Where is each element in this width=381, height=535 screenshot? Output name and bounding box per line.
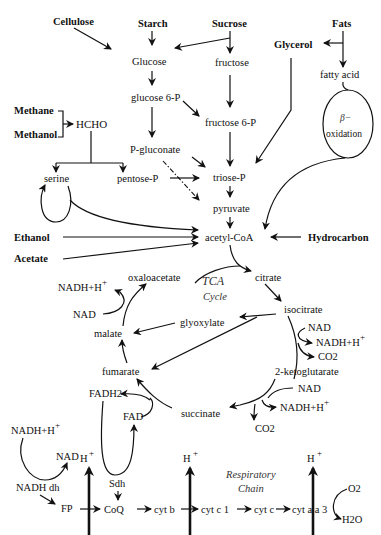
nadh-plus-2: + — [360, 332, 365, 342]
ethanol-label: Ethanol — [14, 232, 50, 243]
cellulose-label: Cellulose — [53, 16, 94, 27]
isocitrate-label: isocitrate — [284, 304, 323, 315]
h-plus-sup-2: + — [193, 448, 198, 458]
fatty-acid-label: fatty acid — [320, 69, 360, 80]
fad-to-fadh2-arrow — [121, 394, 150, 400]
serine-to-acetylcoa-arrow — [70, 200, 198, 230]
ketoglutarate-to-succinate-arrow — [230, 379, 275, 407]
coq-label: CoQ — [104, 504, 124, 515]
beta-label: β− — [339, 113, 351, 123]
nadh-dh-label: NADH dh — [16, 482, 60, 493]
fructose6p-label: fructose 6-P — [205, 117, 256, 128]
glyoxylate-to-malate-arrow — [134, 323, 175, 333]
co2-release-arrow-1 — [298, 343, 314, 357]
triosep-label: triose-P — [213, 172, 246, 183]
acetylcoa-to-citrate-arrow — [230, 245, 251, 271]
nadh-plus-3: + — [324, 397, 329, 407]
cyt-c1-label: cyt c 1 — [201, 504, 229, 515]
resp-nad-label: NAD — [56, 451, 79, 462]
glycerol-label: Glycerol — [274, 39, 312, 50]
citrate-label: citrate — [255, 272, 282, 283]
nadh-label-1: NADH+H — [58, 282, 102, 293]
pentosep-label: pentose-P — [117, 173, 159, 184]
cyt-c-label: cyt c — [254, 504, 274, 515]
nad-label-3: NAD — [298, 383, 321, 394]
fadh2-label: FADH2 — [89, 388, 122, 399]
h-plus-sup-1: + — [89, 448, 94, 458]
beta-oxidation-loop — [323, 90, 373, 158]
nadhdh-to-fp-arrow — [40, 495, 55, 504]
cyt-aa3-label: cyt a a 3 — [292, 504, 327, 515]
betaox-to-acetylcoa-arrow — [265, 158, 345, 229]
fumarate-to-malate-arrow — [122, 340, 127, 363]
oxidation-label: oxidation — [326, 129, 362, 139]
pyruvate-label: pyruvate — [213, 203, 250, 214]
co2-release-arrow-2 — [254, 404, 255, 420]
nadh-plus-1: + — [102, 277, 107, 287]
acetate-to-acetylcoa-arrow — [63, 243, 198, 259]
glycerol-to-triosep-arrow — [256, 58, 291, 163]
sucrose-label: Sucrose — [212, 18, 247, 29]
tca-cycle-title: Cycle — [203, 291, 227, 302]
fats-label: Fats — [332, 18, 351, 29]
hydrocarbon-label: Hydrocarbon — [308, 232, 369, 243]
nadh-label-3: NADH+H — [280, 402, 324, 413]
nad-label-1: NAD — [73, 309, 96, 320]
serine-label: serine — [44, 173, 69, 184]
acetate-label: Acetate — [14, 253, 48, 264]
fattyacid-connector — [343, 82, 348, 90]
h2o-label: H2O — [342, 514, 363, 525]
h-plus-label-3: H — [307, 453, 315, 464]
succinate-label: succinate — [181, 408, 220, 419]
nad-to-nadh-arrow-1 — [103, 290, 124, 314]
nad-input-3 — [268, 388, 293, 398]
fumarate-label: fumarate — [102, 366, 140, 377]
ketoglutarate-label: 2-ketoglutarate — [275, 366, 339, 377]
hcho-label: HCHO — [76, 118, 107, 130]
diagram-canvas: Cellulose Starch Sucrose Fats Glycerol G… — [0, 0, 381, 535]
fp-label: FP — [61, 503, 73, 514]
co2-label-2: CO2 — [255, 423, 275, 434]
oxaloacetate-label: oxaloacetate — [128, 272, 181, 283]
sdh-label: Sdh — [109, 478, 126, 489]
pgluconate-to-pyruvate-dashed-arrow — [163, 161, 199, 200]
nad-label-2: NAD — [308, 322, 331, 333]
malate-to-oxaloacetate-arrow — [123, 284, 146, 326]
glyoxylate-label: glyoxylate — [180, 317, 225, 328]
serine-cycle-loop — [41, 185, 71, 222]
metabolic-pathway-diagram: Cellulose Starch Sucrose Fats Glycerol G… — [0, 0, 381, 535]
malate-label: malate — [94, 328, 122, 339]
g6p-to-f6p-arrow — [183, 101, 199, 116]
glucose6p-label: glucose 6-P — [131, 92, 180, 103]
isocitrate-to-glyoxylate-arrow — [240, 314, 276, 317]
methane-methanol-bracket — [58, 111, 63, 137]
nad-to-nadh-arrow-3 — [262, 400, 276, 407]
co2-label-1: CO2 — [318, 351, 338, 362]
glucose-label: Glucose — [132, 56, 167, 67]
cyt-b-label: cyt b — [154, 504, 175, 515]
starch-label: Starch — [138, 18, 168, 29]
fructose-label: fructose — [215, 57, 249, 68]
succinate-to-fumarate-arrow — [137, 379, 172, 408]
acetylcoa-label: acetyl-CoA — [205, 232, 254, 243]
respiratory-chain-title: Chain — [238, 483, 264, 494]
pgluconate-to-triosep-arrow — [192, 157, 205, 167]
h-plus-label-1: H — [80, 453, 88, 464]
resp-nadh-label: NADH+H — [11, 425, 55, 436]
pgluconate-label: P-gluconate — [130, 144, 180, 155]
cellulose-to-glucose-arrow — [74, 28, 111, 49]
tca-title: TCA — [202, 274, 225, 288]
citrate-to-isocitrate-arrow — [265, 284, 281, 301]
h-plus-sup-3: + — [317, 448, 322, 458]
methane-label: Methane — [14, 105, 54, 116]
methanol-label: Methanol — [14, 129, 57, 140]
resp-nadh-plus: + — [55, 420, 60, 430]
h-plus-label-2: H — [183, 453, 191, 464]
nadh-label-2: NADH+H — [316, 337, 360, 348]
respiratory-title: Respiratory — [225, 469, 276, 480]
sucrose-to-glucose-arrow — [175, 38, 230, 48]
o2-label: O2 — [348, 483, 361, 494]
fad-label: FAD — [123, 411, 144, 422]
